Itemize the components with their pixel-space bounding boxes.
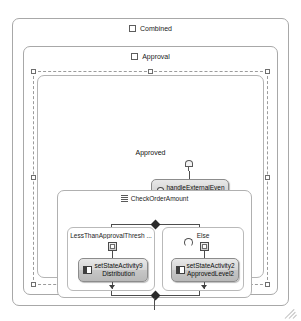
resize-grip[interactable]: [285, 305, 298, 318]
connector-arrow: [109, 285, 115, 289]
selection-handle-bottom-right[interactable]: [265, 282, 270, 287]
selection-handle-bottom-left[interactable]: [31, 282, 36, 287]
selection-handle-top-left[interactable]: [31, 69, 36, 74]
state-combined[interactable]: Combined Approval Approved: [12, 18, 289, 306]
state-approval-header: Approval: [24, 53, 277, 60]
ifelse-icon: [121, 195, 128, 202]
sequence-loop-icon: [183, 237, 195, 248]
state-approval[interactable]: Approval Approved: [23, 46, 278, 295]
selection-handle-top-right[interactable]: [265, 69, 270, 74]
connector-line: [189, 171, 190, 179]
selection-handle-middle-left[interactable]: [31, 175, 36, 180]
activity-label: setStateActivity9 Distribution: [92, 262, 147, 278]
event-icon: [184, 160, 194, 171]
connector-line: [111, 291, 112, 296]
activity-label: setStateActivity2 ApprovedLevel2: [185, 262, 238, 278]
event-driven-label: Approved: [38, 149, 263, 156]
state-icon: [129, 25, 136, 32]
connector-line: [199, 291, 200, 296]
condition-icon: [200, 242, 209, 251]
state-approval-label: Approval: [142, 53, 170, 60]
connector-junction-bottom: [151, 291, 161, 301]
branch-label: LessThanApprovalThresh ...: [70, 232, 152, 239]
selection-handle-top-center[interactable]: [148, 69, 153, 74]
selection-handle-middle-right[interactable]: [265, 175, 270, 180]
ifelse-check-order-amount[interactable]: CheckOrderAmount LessThanApprovalThresh …: [57, 190, 252, 298]
event-driven-panel[interactable]: Approved handleExternalEven tActivity2: [37, 75, 264, 278]
ifelse-label: CheckOrderAmount: [131, 195, 188, 202]
connector-line: [112, 251, 113, 258]
activity-set-state-distribution[interactable]: setStateActivity9 Distribution: [78, 258, 148, 282]
connector-line: [154, 298, 155, 310]
state-combined-label: Combined: [140, 25, 172, 32]
state-icon: [131, 53, 138, 60]
set-state-icon: [176, 266, 185, 274]
state-combined-header: Combined: [13, 25, 288, 32]
ifelse-header: CheckOrderAmount: [58, 195, 251, 202]
set-state-icon: [83, 266, 92, 274]
branch-label: Else: [165, 232, 241, 239]
connector-line: [204, 251, 205, 258]
activity-set-state-approved-level2[interactable]: setStateActivity2 ApprovedLevel2: [171, 258, 239, 282]
connector-arrow: [201, 285, 207, 289]
condition-icon: [108, 242, 117, 251]
ifelse-branch-else[interactable]: Else setStateActivity2 ApprovedLevel2: [162, 227, 244, 291]
workflow-designer-canvas[interactable]: Combined Approval Approved: [0, 0, 301, 321]
ifelse-branch-less-than-threshold[interactable]: LessThanApprovalThresh ... setStateActiv…: [67, 227, 155, 291]
